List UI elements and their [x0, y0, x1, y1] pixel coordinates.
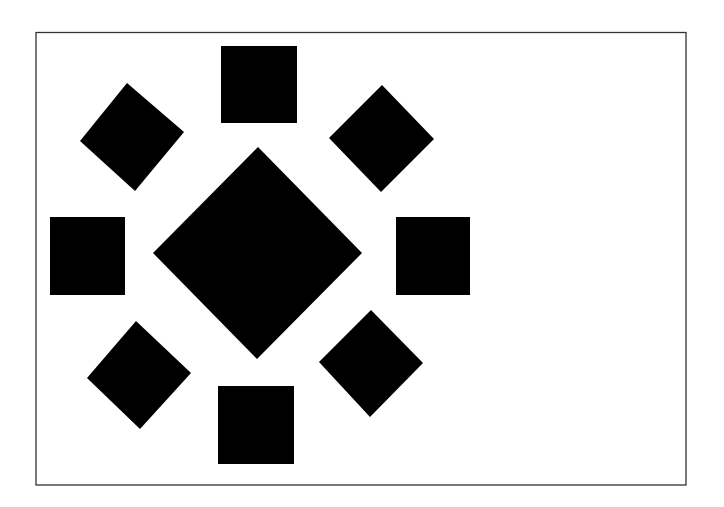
center-diamond: [153, 147, 362, 359]
bottom-right-diamond: [319, 310, 423, 417]
top-left-diamond: [80, 83, 184, 191]
shapes-layer: [50, 46, 470, 464]
top-right-diamond: [329, 85, 434, 192]
right-square: [396, 217, 470, 295]
bottom-square: [218, 386, 294, 464]
top-square: [221, 46, 297, 123]
figure-canvas: [0, 0, 724, 507]
left-square: [50, 217, 125, 295]
bottom-left-diamond: [87, 321, 191, 429]
